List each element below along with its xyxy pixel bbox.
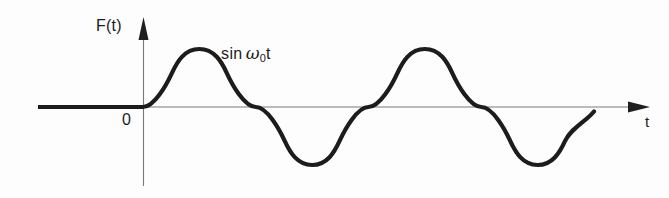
f-axis-arrow-icon: [139, 17, 149, 40]
curve-annotation-label: sinω0t: [221, 45, 271, 64]
x-axis-label: t: [645, 114, 649, 129]
curve-annotation-variable: t: [266, 45, 271, 62]
curve-annotation-sin: sin: [221, 45, 243, 62]
y-axis-label: F(t): [96, 18, 122, 34]
curve-annotation-omega: ω: [243, 43, 260, 63]
t-axis-arrow-icon: [628, 102, 650, 113]
figure-sine-switched-on: F(t) sinω0t 0 t: [0, 0, 669, 198]
origin-label: 0: [122, 112, 131, 128]
